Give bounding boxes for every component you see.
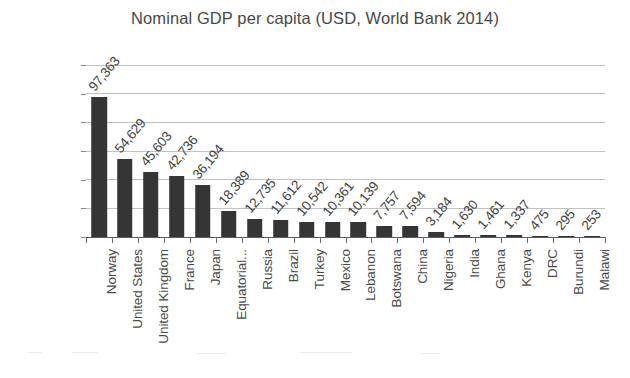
x-tick-mark <box>268 237 269 243</box>
bar[interactable] <box>351 222 367 237</box>
bar-chart-figure: Nominal GDP per capita (USD, World Bank … <box>0 0 630 378</box>
bar-slot[interactable]: 7,594 <box>397 65 423 237</box>
bar-slot[interactable]: 1,461 <box>475 65 501 237</box>
x-axis-category-label: India <box>467 249 482 278</box>
bar[interactable] <box>91 97 107 237</box>
bar[interactable] <box>506 235 522 237</box>
x-axis-category-label: Nigeria <box>441 249 456 291</box>
x-tick-mark <box>423 237 424 243</box>
bar-slot[interactable]: 45,603 <box>138 65 164 237</box>
bar-slot[interactable]: 10,361 <box>320 65 346 237</box>
plot-area: 97,363Norway54,629United States45,603Uni… <box>86 65 605 237</box>
x-tick-mark <box>294 237 295 243</box>
x-axis-category-label: China <box>415 249 430 284</box>
bar-slot[interactable]: 97,363 <box>86 65 112 237</box>
x-tick-mark <box>553 237 554 243</box>
bar[interactable] <box>480 235 496 237</box>
x-axis-category-label: Lebanon <box>363 249 378 301</box>
x-axis-category-label: Brazil <box>286 249 301 282</box>
bar[interactable] <box>247 219 263 237</box>
bar-slot[interactable]: 18,389 <box>216 65 242 237</box>
bar-slot[interactable]: 54,629 <box>112 65 138 237</box>
bar-slot[interactable]: 36,194 <box>190 65 216 237</box>
x-axis-category-label: DRC <box>545 249 560 278</box>
x-axis-category-label: Botswana <box>389 249 404 308</box>
x-axis-category-label: Mexico <box>338 249 353 291</box>
x-tick-mark <box>371 237 372 243</box>
x-tick-mark <box>605 237 606 243</box>
x-tick-mark <box>397 237 398 243</box>
bar[interactable] <box>221 211 237 237</box>
bar[interactable] <box>325 222 341 237</box>
chart-title: Nominal GDP per capita (USD, World Bank … <box>0 9 630 28</box>
x-axis-category-label: United States <box>130 249 145 329</box>
bar[interactable] <box>169 176 185 237</box>
bar-value-label: 475 <box>527 206 553 232</box>
bar[interactable] <box>403 226 419 237</box>
bar-value-label: 253 <box>579 206 605 232</box>
x-tick-mark <box>475 237 476 243</box>
bar[interactable] <box>143 172 159 237</box>
bar[interactable] <box>299 222 315 237</box>
x-tick-mark <box>86 237 87 243</box>
bar[interactable] <box>195 185 211 237</box>
bar[interactable] <box>454 235 470 237</box>
bar[interactable] <box>117 159 133 237</box>
x-tick-mark <box>527 237 528 243</box>
x-tick-mark <box>449 237 450 243</box>
bar[interactable] <box>532 236 548 238</box>
bar-slot[interactable]: 253 <box>579 65 605 237</box>
x-tick-mark <box>579 237 580 243</box>
bar-slot[interactable]: 10,542 <box>294 65 320 237</box>
x-axis-category-label: Equatorial... <box>234 249 249 320</box>
bar-slot[interactable]: 7,757 <box>371 65 397 237</box>
x-axis-category-label: Norway <box>104 249 119 294</box>
x-axis-category-label: Turkey <box>312 249 327 289</box>
x-tick-mark <box>190 237 191 243</box>
bar[interactable] <box>273 220 289 237</box>
x-tick-mark <box>242 237 243 243</box>
x-tick-mark <box>501 237 502 243</box>
bar[interactable] <box>584 236 600 238</box>
bar[interactable] <box>429 232 445 237</box>
x-tick-mark <box>164 237 165 243</box>
x-axis-category-label: United Kingdom <box>156 249 171 344</box>
bar-slot[interactable]: 11,612 <box>268 65 294 237</box>
x-tick-mark <box>320 237 321 243</box>
bar-slot[interactable]: 3,184 <box>423 65 449 237</box>
bar-slot[interactable]: 295 <box>553 65 579 237</box>
x-axis-category-label: Russia <box>260 249 275 290</box>
x-axis-category-label: Malawi <box>597 249 612 290</box>
x-tick-mark <box>346 237 347 243</box>
x-axis-category-label: Ghana <box>493 249 508 289</box>
bar-slot[interactable]: 42,736 <box>164 65 190 237</box>
bar-value-label: 295 <box>553 206 579 232</box>
x-axis-category-label: Kenya <box>519 249 534 287</box>
bar-slot[interactable]: 10,139 <box>346 65 372 237</box>
x-tick-mark <box>216 237 217 243</box>
x-axis-category-label: France <box>182 249 197 290</box>
bar-slot[interactable]: 12,735 <box>242 65 268 237</box>
x-axis-category-label: Japan <box>208 249 223 285</box>
x-tick-mark <box>112 237 113 243</box>
bar-slot[interactable]: 1,337 <box>501 65 527 237</box>
x-tick-mark <box>138 237 139 243</box>
x-axis-category-label: Burundi <box>571 249 586 295</box>
bar[interactable] <box>377 226 393 237</box>
bar[interactable] <box>558 236 574 238</box>
bar-slot[interactable]: 475 <box>527 65 553 237</box>
bar-slot[interactable]: 1,630 <box>449 65 475 237</box>
